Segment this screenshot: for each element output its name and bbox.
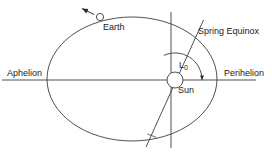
spring-equinox-label: Spring Equinox <box>198 26 259 36</box>
earth-marker <box>96 13 103 20</box>
earth-label: Earth <box>103 22 125 32</box>
sun-label: Sun <box>178 85 194 95</box>
orbit-diagram-svg <box>0 0 272 160</box>
orbital-motion-arrow <box>82 9 94 15</box>
l0-angle-label: L0 <box>179 60 188 73</box>
aphelion-label: Aphelion <box>7 68 42 78</box>
l0-subscript: 0 <box>184 64 188 71</box>
orbit-diagram: Aphelion Perihelion Earth Sun Spring Equ… <box>0 0 272 160</box>
orbit-ellipse <box>47 17 217 141</box>
perihelion-label: Perihelion <box>224 68 264 78</box>
